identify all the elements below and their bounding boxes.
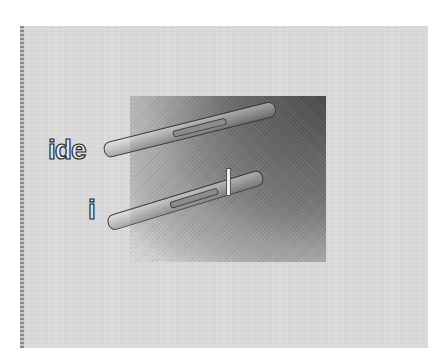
marker-bar xyxy=(226,168,231,196)
label-upper: ide xyxy=(48,134,85,166)
label-lower: i xyxy=(88,194,95,226)
image-frame: ide i xyxy=(20,26,428,348)
frame-edge xyxy=(20,26,24,348)
